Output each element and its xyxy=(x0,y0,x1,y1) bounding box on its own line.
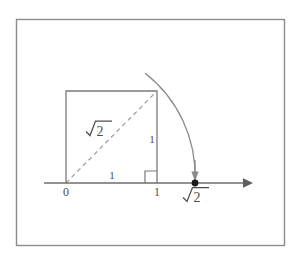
radicand-diagonal: 2 xyxy=(97,124,104,139)
sqrt2-construction-diagram: 0 1 1 1 2 2 xyxy=(0,0,300,263)
radicand-axis: 2 xyxy=(194,190,201,205)
label-base-side-one: 1 xyxy=(109,169,115,181)
page-background xyxy=(0,0,300,263)
figure-container: 0 1 1 1 2 2 xyxy=(0,0,300,263)
sqrt2-point xyxy=(192,180,199,187)
label-one-on-axis: 1 xyxy=(154,185,160,199)
label-vertical-side-one: 1 xyxy=(149,133,155,145)
label-origin-zero: 0 xyxy=(63,185,69,199)
